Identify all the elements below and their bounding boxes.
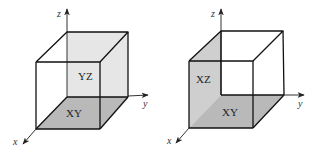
y-axis-label: y (142, 98, 148, 109)
x-axis (23, 129, 36, 144)
xy-plane-label: XY (222, 106, 238, 118)
x-axis (176, 128, 189, 143)
x-axis-label: x (166, 135, 172, 146)
z-axis-label: z (56, 8, 61, 19)
yz-plane-label: YZ (78, 70, 93, 82)
xy-plane-label: XY (66, 107, 82, 119)
z-axis-label: z (210, 8, 215, 19)
coordinate-planes-figure: z y x YZ XY z y x XZ XY (0, 0, 316, 155)
y-axis (128, 95, 148, 96)
xz-plane-label: XZ (196, 73, 211, 85)
x-axis-label: x (12, 136, 18, 147)
left-cube-diagram: z y x YZ XY (12, 8, 148, 147)
right-cube-diagram: z y x XZ XY (166, 8, 304, 146)
back-right-edge (283, 31, 284, 95)
y-axis-label: y (297, 98, 303, 109)
